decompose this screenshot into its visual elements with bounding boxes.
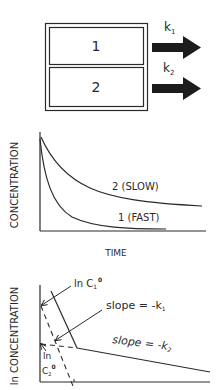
lnC2-label-line2: C20 xyxy=(42,363,56,377)
two-compartment-figure: 1 2 k1 k2 2 (SLOW) 1 (FAST) CONCENTRATIO… xyxy=(0,0,220,390)
compartment-diagram: 1 2 k1 k2 xyxy=(46,20,202,111)
concentration-axis-label: CONCENTRATION xyxy=(9,142,20,228)
arrow-k1-icon xyxy=(152,36,201,59)
log-plot: ln C10 slope = -k1 slope = -k2 ln C20 ln… xyxy=(9,276,210,386)
lnC2-label-line1: ln xyxy=(43,351,51,361)
arrow-k2-icon xyxy=(152,77,201,100)
slow-phase-line xyxy=(77,348,210,372)
k2-label: k2 xyxy=(163,61,174,77)
linear-plot: 2 (SLOW) 1 (FAST) CONCENTRATION TIME xyxy=(9,132,206,258)
slow-extrapolation-dashed xyxy=(41,344,77,348)
slow-curve xyxy=(41,137,202,206)
ln-concentration-axis-label: ln CONCENTRATION xyxy=(9,287,20,386)
compartment-2-label: 2 xyxy=(92,79,101,95)
lnC1-label: ln C10 xyxy=(74,276,102,290)
slope1-label: slope = -k1 xyxy=(106,299,166,312)
slow-curve-label: 2 (SLOW) xyxy=(112,181,159,192)
compartment-1-label: 1 xyxy=(92,38,101,54)
fast-curve-label: 1 (FAST) xyxy=(118,212,160,223)
slope1-pointer-arrow xyxy=(56,310,102,340)
k1-label: k1 xyxy=(164,20,175,36)
lnC2-pointer-arrow xyxy=(41,344,46,351)
time-axis-label: TIME xyxy=(104,248,127,258)
slope2-label: slope = -k2 xyxy=(112,333,173,353)
